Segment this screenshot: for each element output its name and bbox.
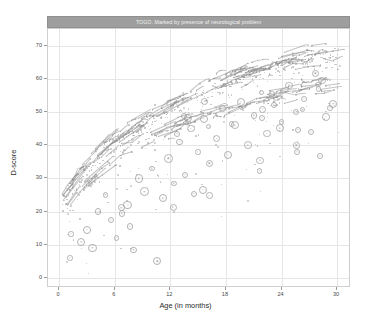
data-point	[242, 89, 243, 90]
data-point	[322, 71, 323, 72]
data-point	[207, 97, 208, 98]
data-point	[266, 121, 267, 122]
data-point	[325, 111, 326, 112]
data-point	[267, 113, 268, 114]
data-point	[201, 94, 202, 95]
y-tick-label: 20	[28, 208, 42, 214]
x-tick	[281, 287, 282, 290]
data-point	[155, 209, 156, 210]
x-tick	[336, 287, 337, 290]
highlighted-observation	[153, 257, 161, 265]
x-tick-label: 6	[112, 291, 115, 297]
gridline-vertical	[59, 29, 60, 286]
data-point	[292, 62, 293, 63]
data-point	[253, 69, 254, 70]
x-tick-label: 30	[333, 291, 339, 297]
data-point	[167, 107, 168, 108]
data-point	[141, 131, 142, 132]
data-point	[139, 124, 140, 125]
data-point	[292, 66, 293, 67]
data-point	[88, 180, 89, 181]
data-point	[90, 185, 91, 186]
data-point	[137, 131, 139, 133]
highlighted-observation	[83, 226, 91, 234]
data-point	[79, 181, 80, 182]
data-point	[197, 96, 198, 97]
highlighted-observation	[108, 217, 115, 224]
data-point	[116, 188, 118, 190]
highlighted-observation	[171, 181, 177, 187]
data-point	[197, 100, 198, 101]
y-tick-label: 0	[28, 274, 42, 280]
data-point	[90, 163, 91, 164]
data-point	[335, 57, 336, 58]
data-point	[267, 59, 268, 60]
data-point	[275, 72, 276, 73]
data-point	[245, 84, 246, 85]
data-point	[148, 138, 149, 139]
data-point	[320, 64, 321, 65]
data-point	[66, 195, 68, 197]
highlighted-observation	[322, 113, 330, 121]
data-point	[246, 74, 247, 75]
data-point	[264, 72, 265, 73]
data-point	[330, 54, 331, 55]
highlighted-observation	[237, 98, 245, 106]
data-point	[97, 162, 98, 163]
data-point	[113, 151, 115, 153]
data-point	[150, 128, 151, 129]
y-tick-label: 40	[28, 141, 42, 147]
data-point	[103, 147, 104, 148]
data-point	[144, 127, 145, 128]
data-point	[116, 148, 117, 149]
data-point	[228, 94, 229, 95]
data-point	[179, 110, 180, 111]
y-tick	[44, 45, 47, 46]
highlighted-observation	[195, 149, 200, 154]
data-point	[284, 66, 285, 67]
chart-figure: TOGO. Marked by presence of neurological…	[0, 0, 371, 324]
highlighted-observation	[164, 154, 173, 163]
highlighted-observation	[130, 247, 137, 254]
data-point	[268, 103, 269, 104]
highlighted-observation	[327, 105, 333, 111]
data-point	[234, 115, 235, 116]
data-point	[153, 139, 155, 141]
data-point	[187, 102, 188, 103]
data-point	[300, 84, 302, 86]
data-point	[267, 116, 268, 117]
data-point	[226, 85, 227, 86]
data-point	[253, 82, 254, 83]
highlighted-observation	[293, 142, 300, 149]
plot-panel	[47, 28, 350, 287]
data-point	[329, 79, 331, 81]
data-point	[332, 50, 334, 52]
data-point	[302, 75, 303, 76]
data-point	[66, 199, 67, 200]
highlighted-observation	[256, 157, 263, 164]
data-point	[217, 146, 219, 148]
data-point	[325, 58, 326, 59]
highlighted-observation	[300, 107, 305, 112]
data-point	[269, 143, 270, 144]
highlighted-observation	[187, 125, 195, 133]
data-point	[281, 96, 282, 97]
highlighted-observation	[229, 121, 235, 127]
data-point	[259, 134, 260, 135]
data-point	[99, 163, 100, 164]
highlighted-observation	[119, 210, 125, 216]
data-point	[201, 109, 202, 110]
highlighted-observation	[103, 192, 109, 198]
data-point	[292, 129, 293, 130]
data-point	[260, 191, 261, 192]
data-point	[99, 181, 100, 182]
data-point	[81, 248, 82, 249]
highlighted-observation	[224, 151, 233, 160]
data-point	[323, 54, 324, 55]
trajectory-line	[294, 66, 307, 70]
data-point	[204, 96, 205, 97]
x-tick-label: 18	[222, 291, 228, 297]
data-point	[102, 160, 103, 161]
gridline-horizontal	[48, 112, 349, 113]
highlighted-observation	[199, 186, 207, 194]
